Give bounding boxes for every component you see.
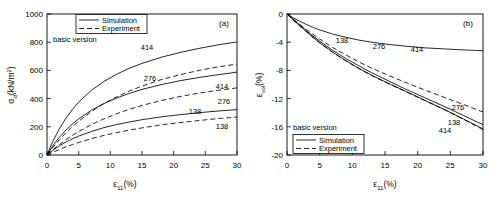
y-tick-label: -8 (276, 66, 284, 75)
curve-labels-b: 138 276 414 276 138 414 (336, 36, 465, 135)
svg-text:σd(kN/m2): σd(kN/m2) (6, 66, 18, 104)
panel-label-a: (a) (219, 19, 229, 28)
curve-label-exp-276: 276 (218, 97, 231, 106)
curve-simulation-414 (47, 42, 237, 155)
y-tick-label: 200 (30, 123, 44, 132)
curve-label-exp-414: 414 (216, 82, 229, 91)
y-tick-label: 800 (30, 38, 44, 47)
legend-a: Simulation Experiment (76, 15, 147, 34)
y-axis-unit: (%) (254, 72, 264, 85)
x-axis-title-b: ε11(%) (373, 179, 396, 191)
x-tick-label: 20 (169, 161, 178, 170)
y-tick-label: -4 (276, 38, 284, 47)
curve-simulation-276 (47, 72, 237, 155)
y-axis-ticks-a (47, 14, 51, 155)
y-tick-label: 600 (30, 66, 44, 75)
curve-label-sim-276-upper: 276 (373, 42, 386, 51)
curve-label-exp-138: 138 (216, 122, 229, 131)
y-tick-label: 0 (39, 151, 44, 160)
curve-label-sim-276: 276 (144, 74, 157, 83)
y-axis-subscript: vol (260, 86, 266, 94)
x-tick-label: 10 (348, 161, 357, 170)
note-basic-version-a: basic version (53, 35, 97, 44)
curve-label-sim-138-upper: 138 (336, 36, 349, 45)
curve-label-exp-276: 276 (452, 103, 465, 112)
curve-experiment-414 (287, 14, 483, 130)
x-tick-label: 0 (285, 161, 290, 170)
x-tick-label: 30 (479, 161, 488, 170)
chart-panel-a: 0 200 400 600 800 1000 0 5 10 (0, 0, 249, 197)
chart-svg-a: 0 200 400 600 800 1000 0 5 10 (0, 0, 249, 197)
x-axis-title-a: ε11(%) (113, 179, 136, 191)
y-tick-label: 0 (279, 10, 284, 19)
x-tick-label: 5 (76, 161, 81, 170)
x-axis-unit: (%) (123, 179, 136, 189)
y-axis-title-b: εvol(%) (254, 72, 266, 97)
y-tick-label: 400 (30, 95, 44, 104)
y-tick-label: 1000 (25, 10, 43, 19)
curve-experiment-414 (47, 64, 237, 155)
y-axis-unit-close: ) (6, 66, 16, 69)
panel-label-b: (b) (463, 19, 473, 28)
y-axis-ticks-b (287, 14, 291, 155)
curve-simulation-138 (47, 110, 237, 155)
curve-label-sim-414: 414 (141, 43, 154, 52)
y-axis-tick-labels-b: 0 -4 -8 -12 -16 -20 (271, 10, 283, 160)
y-tick-label: -20 (271, 151, 283, 160)
x-axis-tick-labels-a: 0 5 10 15 20 25 30 (45, 161, 242, 170)
y-axis-unit: (kN/m (6, 72, 16, 95)
svg-text:εvol(%): εvol(%) (254, 72, 266, 97)
legend-b: Simulation Experiment (293, 135, 364, 154)
figure-container: 0 200 400 600 800 1000 0 5 10 (0, 0, 498, 197)
x-tick-label: 30 (233, 161, 242, 170)
y-tick-label: -16 (271, 123, 283, 132)
svg-text:ε11(%): ε11(%) (113, 179, 136, 191)
note-basic-version-b: basic version (293, 123, 337, 132)
legend-label-experiment: Experiment (319, 144, 358, 153)
x-tick-label: 15 (381, 161, 390, 170)
data-curves-b (287, 14, 483, 130)
x-tick-label: 10 (106, 161, 115, 170)
y-tick-label: -12 (271, 95, 283, 104)
x-axis-ticks-a (47, 151, 237, 155)
plot-frame-b (287, 14, 483, 155)
chart-panel-b: 0 -4 -8 -12 -16 -20 0 5 10 15 (249, 0, 498, 197)
curve-label-sim-414-upper: 414 (411, 45, 424, 54)
chart-svg-b: 0 -4 -8 -12 -16 -20 0 5 10 15 (249, 0, 498, 197)
y-axis-title-a: σd(kN/m2) (6, 66, 18, 104)
x-tick-label: 25 (201, 161, 210, 170)
svg-text:ε11(%): ε11(%) (373, 179, 396, 191)
x-tick-label: 20 (413, 161, 422, 170)
x-tick-label: 5 (317, 161, 322, 170)
curve-label-sim-138: 138 (189, 107, 202, 116)
x-tick-label: 15 (138, 161, 147, 170)
x-tick-label: 25 (446, 161, 455, 170)
y-axis-tick-labels-a: 0 200 400 600 800 1000 (25, 10, 43, 160)
x-axis-tick-labels-b: 0 5 10 15 20 25 30 (285, 161, 488, 170)
x-tick-label: 0 (45, 161, 50, 170)
legend-label-experiment: Experiment (102, 24, 141, 33)
curve-experiment-138 (47, 117, 237, 155)
x-axis-unit: (%) (383, 179, 396, 189)
data-curves-a (47, 42, 237, 155)
curve-label-exp-414: 414 (439, 126, 452, 135)
